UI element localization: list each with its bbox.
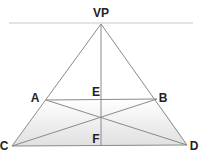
label-a: A: [31, 92, 40, 104]
perspective-diagram: [0, 0, 199, 154]
label-b: B: [159, 92, 168, 104]
label-f: F: [92, 133, 99, 145]
label-c: C: [0, 140, 8, 152]
label-e: E: [92, 86, 100, 98]
label-vp: VP: [93, 7, 109, 19]
label-d: D: [190, 140, 199, 152]
